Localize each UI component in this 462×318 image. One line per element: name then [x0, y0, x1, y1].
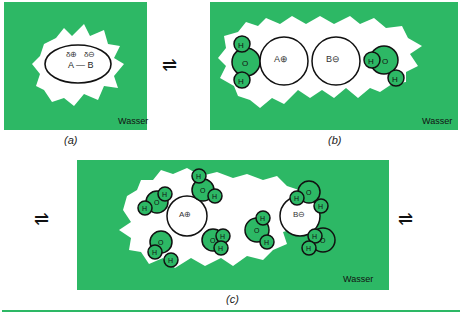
caption-c: (c) [226, 293, 239, 305]
cation-a: A⊕ [179, 210, 191, 219]
solvent-label: Wasser [118, 116, 148, 126]
svg-text:H: H [294, 195, 299, 202]
svg-text:H: H [212, 193, 217, 200]
svg-text:H: H [306, 245, 311, 252]
svg-text:H: H [220, 233, 225, 240]
equilibrium-arrow-icon: ⇌ [34, 208, 49, 230]
svg-text:H: H [168, 257, 173, 264]
svg-text:H: H [264, 239, 269, 246]
svg-text:H: H [318, 203, 323, 210]
svg-text:H: H [260, 215, 265, 222]
bottom-divider [2, 310, 460, 312]
svg-text:H: H [142, 205, 147, 212]
caption-a: (a) [64, 134, 77, 146]
svg-text:O: O [154, 199, 160, 206]
partial-negative-charge: δ⊖ [84, 50, 95, 59]
panel-c: OHH OHH OHH OHH OHH OHH OHH A⊕ B⊖ Wasser [77, 160, 389, 290]
svg-text:H: H [196, 173, 201, 180]
cation-a: A⊕ [274, 54, 288, 64]
solvent-label: Wasser [422, 116, 452, 126]
anion-b: B⊖ [326, 54, 340, 64]
svg-text:H: H [162, 191, 167, 198]
svg-text:H: H [368, 57, 374, 66]
svg-text:O: O [210, 237, 216, 244]
svg-text:H: H [238, 41, 244, 50]
solvent-label: Wasser [343, 274, 373, 284]
svg-text:O: O [200, 187, 206, 194]
equilibrium-arrow-icon: ⇌ [398, 208, 413, 230]
svg-text:H: H [392, 75, 398, 84]
svg-text:O: O [320, 237, 326, 244]
svg-text:O: O [254, 227, 260, 234]
panel-a: δ⊕ δ⊖ A — B Wasser [4, 2, 147, 130]
panel-b: H O H H O H A⊕ B⊖ Wasser [210, 2, 458, 130]
svg-text:H: H [218, 245, 223, 252]
svg-text:H: H [312, 233, 317, 240]
caption-b: (b) [328, 134, 341, 146]
molecule-ab: A — B [68, 60, 94, 70]
panel-b-graphic: H O H H O H [210, 2, 458, 130]
svg-text:H: H [238, 77, 244, 86]
equilibrium-arrow-icon: ⇌ [162, 54, 177, 76]
svg-text:O: O [158, 239, 164, 246]
svg-text:H: H [152, 249, 157, 256]
svg-text:O: O [306, 189, 312, 196]
anion-b: B⊖ [293, 210, 305, 219]
svg-text:O: O [382, 57, 388, 66]
partial-positive-charge: δ⊕ [66, 50, 77, 59]
svg-text:O: O [242, 59, 248, 68]
panel-c-graphic: OHH OHH OHH OHH OHH OHH OHH [77, 160, 389, 290]
